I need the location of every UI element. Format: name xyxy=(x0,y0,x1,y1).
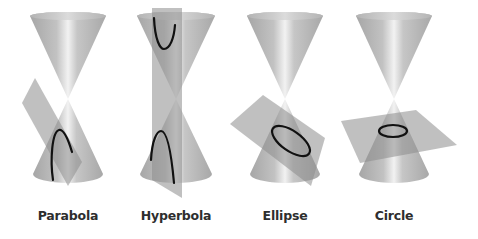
label-hyperbola: Hyperbola xyxy=(141,208,212,223)
upper-nappe xyxy=(356,12,432,99)
upper-nappe-rim xyxy=(30,12,106,20)
upper-nappe-rim xyxy=(247,12,323,20)
label-circle: Circle xyxy=(375,208,414,223)
panel-ellipse xyxy=(230,12,325,186)
panel-circle xyxy=(341,12,457,183)
panel-parabola xyxy=(22,12,106,186)
diagram-canvas xyxy=(0,0,478,239)
upper-nappe xyxy=(247,12,323,99)
upper-nappe-rim xyxy=(356,12,432,20)
panel-hyperbola xyxy=(137,8,215,198)
upper-nappe xyxy=(30,12,106,99)
label-parabola: Parabola xyxy=(38,208,99,223)
conic-sections-diagram: Parabola Hyperbola Ellipse Circle xyxy=(0,0,478,239)
label-ellipse: Ellipse xyxy=(263,208,308,223)
